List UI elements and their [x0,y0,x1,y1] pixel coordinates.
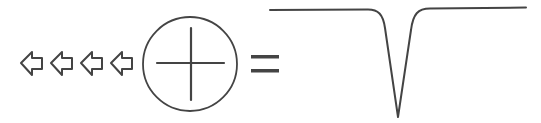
arrow-left-outline-icon [21,52,42,75]
arrow-left-outline-icon [111,52,132,75]
diagram-svg [0,0,541,123]
equals-icon [251,55,279,73]
negative-spike-waveform-icon [270,8,526,118]
arrow-left-outline-icon [81,52,102,75]
arrow-left-outline-icon [51,52,72,75]
diagram-canvas [0,0,541,123]
circle-cross-icon [143,17,237,111]
